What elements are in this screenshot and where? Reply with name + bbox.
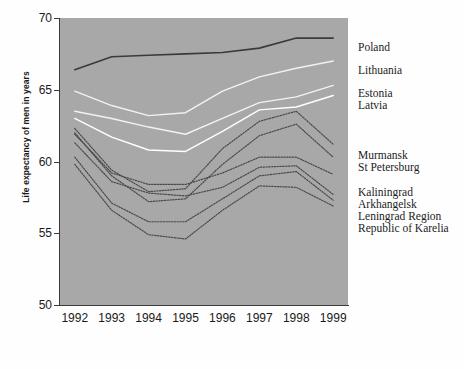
y-tick-mark [54,90,59,91]
y-axis-label: Life expectancy of men in years [21,47,31,227]
legend-label-murmansk: Murmansk [358,150,408,162]
x-tick-label: 1995 [166,312,206,324]
y-tick-label-wrap: 70 [0,12,52,24]
legend-label-leningrad-region: Leningrad Region [358,211,441,223]
y-tick-label-wrap: 50 [0,299,52,311]
legend-label-republic-of-karelia: Republic of Karelia [358,223,449,235]
x-tick-label: 1996 [202,312,242,324]
y-tick-label-wrap: 55 [0,227,52,239]
x-tick-label: 1993 [92,312,132,324]
legend-label-latvia: Latvia [358,100,387,112]
legend: PolandLithuaniaEstoniaLatviaMurmanskSt P… [358,0,464,369]
x-tick-label: 1999 [313,312,353,324]
x-tick-label: 1998 [276,312,316,324]
x-tick-label: 1997 [239,312,279,324]
legend-label-estonia: Estonia [358,88,393,100]
legend-label-poland: Poland [358,42,390,54]
legend-label-st-petersburg: St Petersburg [358,162,419,174]
y-tick-mark [54,233,59,234]
y-tick-mark [54,162,59,163]
y-tick-label: 55 [26,227,52,239]
y-tick-mark [54,305,59,306]
x-tick-label: 1992 [55,312,95,324]
legend-label-arkhangelsk: Arkhangelsk [358,199,417,211]
y-axis-line [59,18,60,306]
y-tick-label: 70 [26,12,52,24]
x-axis-line [59,305,349,306]
chart-figure: 5055606570 19921993199419951996199719981… [0,0,464,369]
plot-area [60,18,348,305]
y-tick-mark [54,18,59,19]
legend-label-lithuania: Lithuania [358,65,402,77]
legend-label-kaliningrad: Kaliningrad [358,187,413,199]
x-tick-label: 1994 [129,312,169,324]
y-tick-label: 50 [26,299,52,311]
